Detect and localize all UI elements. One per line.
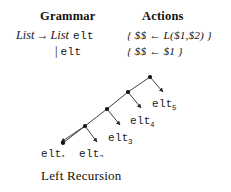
grammar-rule-row-2: |elt { $$ ← $1 } xyxy=(0,43,231,59)
production-1-lhs: List xyxy=(16,28,34,42)
edge-n3-elt3 xyxy=(107,109,120,125)
leaf-label-elt2-subscript: 2 xyxy=(99,154,104,158)
parse-tree-diagram: elt 1 elt 2 elt 3 elt 4 elt 5 xyxy=(0,62,231,157)
leaf-label-elt4-subscript: 4 xyxy=(150,121,155,129)
actions-column-header: Actions xyxy=(142,9,184,24)
leaf-label-elt4-base: elt xyxy=(130,115,151,127)
edge-n2-elt1 xyxy=(61,126,85,142)
tree-node-n4 xyxy=(126,90,130,94)
tree-node-n1 xyxy=(61,141,65,145)
semantic-action-1: { $$ ← L($1,$2) } xyxy=(127,27,212,43)
production-1-rhs-nonterminal: List xyxy=(50,28,68,42)
edge-n2-elt2 xyxy=(85,126,97,142)
tree-node-n3 xyxy=(105,107,109,111)
tree-node-n5 xyxy=(148,75,152,79)
edge-n5-elt5 xyxy=(150,77,163,92)
grammar-column-header: Grammar xyxy=(40,9,96,24)
edge-n3-n2 xyxy=(85,109,107,126)
leaf-label-elt5-base: elt xyxy=(152,98,173,110)
figure-container: Grammar Actions List→Listelt { $$ ← L($1… xyxy=(0,0,231,192)
leaf-label-elt3-base: elt xyxy=(108,132,129,144)
edge-n5-n4 xyxy=(128,77,150,92)
leaf-label-elt1-base: elt xyxy=(41,148,62,157)
tree-node-n2 xyxy=(83,124,87,128)
figure-caption: Left Recursion xyxy=(41,168,121,184)
grammar-rules-table: List→Listelt { $$ ← L($1,$2) } |elt { $$… xyxy=(0,27,231,59)
leaf-label-elt3-subscript: 3 xyxy=(128,138,133,146)
production-1-arrow-icon: → xyxy=(34,28,50,42)
grammar-rule-row-1: List→Listelt { $$ ← L($1,$2) } xyxy=(0,27,231,43)
production-2-rhs-terminal: elt xyxy=(61,46,82,58)
leaf-label-elt2-base: elt xyxy=(79,148,100,157)
grammar-production-2: |elt xyxy=(55,43,82,60)
edge-n4-n3 xyxy=(107,92,128,109)
leaf-label-elt5-subscript: 5 xyxy=(172,104,177,112)
edge-n4-elt4 xyxy=(128,92,141,108)
leaf-label-elt1-subscript: 1 xyxy=(61,154,66,158)
column-headers: Grammar Actions xyxy=(0,9,231,25)
semantic-action-2: { $$ ← $1 } xyxy=(127,43,183,59)
grammar-production-1: List→Listelt xyxy=(16,27,94,44)
parse-tree-svg: elt 1 elt 2 elt 3 elt 4 elt 5 xyxy=(0,62,231,157)
production-1-rhs-terminal: elt xyxy=(69,30,94,42)
